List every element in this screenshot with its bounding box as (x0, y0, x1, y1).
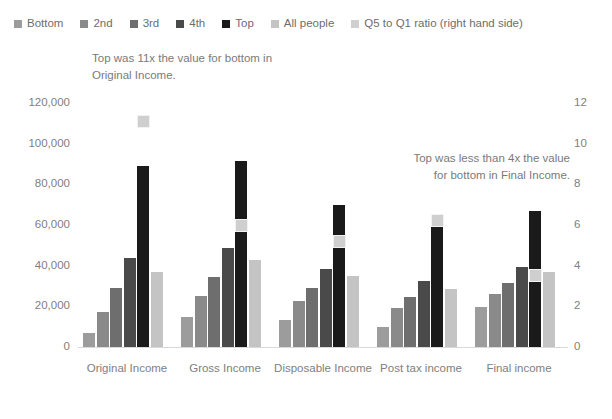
legend-swatch-icon (351, 20, 359, 28)
legend-item-label: Q5 to Q1 ratio (right hand side) (364, 18, 523, 30)
bar-2nd (489, 294, 501, 347)
bar-top (431, 224, 443, 347)
bar-3rd (306, 288, 318, 347)
legend-swatch-icon (14, 20, 22, 28)
chart-legend: Bottom2nd3rd4thTopAll peopleQ5 to Q1 rat… (14, 18, 540, 30)
bar-4th (124, 258, 136, 347)
bar-top (235, 161, 247, 347)
annotation-original-income: Top was 11x the value for bottom in Orig… (92, 50, 282, 84)
bar-4th (418, 281, 430, 347)
x-axis-label-disposable-income: Disposable Income (274, 360, 372, 376)
bar-group (274, 103, 372, 347)
bar-all-people (151, 272, 163, 347)
bar-3rd (404, 297, 416, 347)
y-axis-right-tick: 4 (574, 260, 606, 272)
legend-item-3rd[interactable]: 3rd (130, 18, 160, 30)
legend-item-label: 3rd (143, 18, 160, 30)
plot-area (78, 103, 568, 347)
x-axis-label-post-tax-income: Post tax income (372, 360, 470, 376)
legend-item-label: Top (235, 18, 254, 30)
y-axis-right-tick: 6 (574, 219, 606, 231)
ratio-marker (137, 115, 150, 128)
legend-item-bottom[interactable]: Bottom (14, 18, 63, 30)
bar-all-people (543, 272, 555, 347)
x-axis-label-final-income: Final income (470, 360, 568, 376)
y-axis-right-tick: 2 (574, 300, 606, 312)
y-axis-left-tick: 0 (8, 341, 70, 353)
bar-top (333, 205, 345, 347)
bar-4th (320, 269, 332, 347)
bar-bottom (377, 327, 389, 347)
legend-item-q5-to-q1-ratio-right-hand-side[interactable]: Q5 to Q1 ratio (right hand side) (351, 18, 523, 30)
bar-top (137, 166, 149, 347)
y-axis-left-tick: 100,000 (8, 138, 70, 150)
bar-2nd (195, 296, 207, 347)
bar-group (470, 103, 568, 347)
ratio-marker (529, 269, 542, 282)
bar-bottom (279, 320, 291, 347)
y-axis-left-tick: 40,000 (8, 260, 70, 272)
bar-3rd (502, 283, 514, 347)
bar-3rd (208, 277, 220, 347)
legend-item-label: 4th (189, 18, 205, 30)
legend-item-label: Bottom (27, 18, 63, 30)
y-axis-left-tick: 20,000 (8, 300, 70, 312)
chart-container: Bottom2nd3rd4thTopAll peopleQ5 to Q1 rat… (0, 0, 612, 419)
legend-item-4th[interactable]: 4th (176, 18, 205, 30)
ratio-marker (431, 214, 444, 227)
ratio-marker (235, 219, 248, 232)
bar-group (78, 103, 176, 347)
bar-bottom (475, 307, 487, 347)
y-axis-right-tick: 12 (574, 97, 606, 109)
legend-item-all-people[interactable]: All people (271, 18, 335, 30)
legend-swatch-icon (176, 20, 184, 28)
x-axis-label-original-income: Original Income (78, 360, 176, 376)
y-axis-left-tick: 60,000 (8, 219, 70, 231)
bar-all-people (347, 276, 359, 347)
axis-baseline (78, 347, 568, 348)
bar-bottom (181, 317, 193, 348)
legend-swatch-icon (130, 20, 138, 28)
ratio-marker (333, 235, 346, 248)
bar-4th (516, 267, 528, 347)
bar-4th (222, 248, 234, 347)
y-axis-right-tick: 0 (574, 341, 606, 353)
y-axis-right-tick: 8 (574, 178, 606, 190)
bar-bottom (83, 333, 95, 347)
bar-2nd (391, 308, 403, 347)
bar-group (372, 103, 470, 347)
y-axis-left-tick: 120,000 (8, 97, 70, 109)
bar-2nd (97, 312, 109, 347)
bar-3rd (110, 288, 122, 347)
bar-2nd (293, 301, 305, 347)
y-axis-right-tick: 10 (574, 138, 606, 150)
legend-swatch-icon (271, 20, 279, 28)
x-axis-label-gross-income: Gross Income (176, 360, 274, 376)
y-axis-left-tick: 80,000 (8, 178, 70, 190)
bar-all-people (445, 289, 457, 347)
legend-swatch-icon (222, 20, 230, 28)
legend-item-top[interactable]: Top (222, 18, 254, 30)
legend-item-label: 2nd (93, 18, 112, 30)
legend-item-2nd[interactable]: 2nd (80, 18, 112, 30)
bar-all-people (249, 260, 261, 347)
bar-group (176, 103, 274, 347)
legend-swatch-icon (80, 20, 88, 28)
legend-item-label: All people (284, 18, 335, 30)
